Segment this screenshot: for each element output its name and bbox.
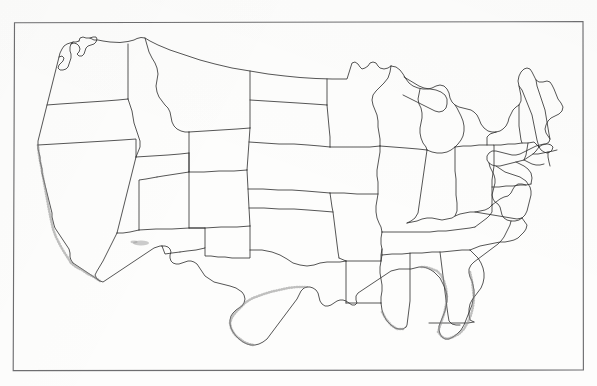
lake-ontario-shore — [496, 105, 519, 132]
northern-border — [79, 37, 391, 79]
california-coast-stipple — [38, 145, 71, 263]
ut-nv-az-jog — [139, 177, 157, 230]
ky-tn-boundary — [382, 227, 475, 232]
nv-ut-boundary — [157, 153, 189, 177]
co-east-boundary — [247, 170, 250, 226]
wa-or-boundary — [47, 99, 128, 105]
pa-ny-north-line — [487, 132, 496, 145]
md-de-boundary — [516, 162, 532, 184]
california-pacific-coast — [38, 145, 73, 263]
wy-east-boundary — [247, 128, 250, 170]
michigan-lower-peninsula — [427, 105, 464, 153]
map-border-frame — [13, 22, 583, 371]
il-in-boundary — [407, 150, 427, 223]
id-mt-boundary — [145, 38, 189, 132]
mn-ia-boundary — [330, 146, 380, 147]
nh-me-boundary — [536, 80, 550, 139]
sd-ne-boundary — [249, 142, 330, 147]
michigan-upper-peninsula — [403, 77, 447, 112]
wi-il-boundary — [380, 146, 427, 150]
az-nm-south-continue — [162, 246, 180, 254]
ks-ok-boundary — [249, 208, 333, 212]
nj-ny-boundary — [524, 160, 544, 165]
nm-tx-boundary — [205, 226, 250, 258]
northeast-atlantic-coast — [487, 144, 553, 166]
mo-ks-boundary — [330, 193, 339, 258]
in-oh-boundary — [455, 147, 457, 216]
florida-west-coast-stipple — [420, 267, 447, 332]
ok-tx-boundary — [250, 250, 346, 266]
ny-vt-boundary — [519, 105, 522, 143]
or-ca-nv-boundary — [38, 139, 136, 157]
ri-ct-boundary — [548, 152, 550, 166]
wy-co-boundary — [189, 170, 247, 172]
puget-sound-detail — [58, 42, 73, 70]
us-outline-map — [0, 0, 597, 386]
state-boundary-group — [38, 37, 563, 345]
southwest-mexico-border — [73, 246, 162, 282]
great-lakes-north-shore — [391, 66, 496, 132]
ca-nv-south-line — [95, 233, 117, 281]
texas-gulf-coast-and-rio-grande — [162, 246, 307, 345]
southeast-coast — [307, 221, 511, 339]
louisiana-delta-stipple — [382, 312, 403, 329]
maine-northern-border — [518, 68, 563, 147]
vt-nh-boundary — [519, 86, 539, 147]
california-south-coast-stipple — [71, 263, 100, 281]
id-ut-nv-line — [136, 153, 189, 157]
illinois-west-boundary — [376, 146, 382, 232]
mn-wi-boundary — [372, 66, 391, 146]
tn-south-boundary — [382, 250, 470, 255]
ohio-river-boundary — [407, 205, 492, 223]
or-id-boundary — [128, 99, 140, 157]
nv-ca-boundary — [117, 157, 136, 233]
texas-coast-stipple — [230, 287, 305, 345]
ms-al-boundary — [406, 253, 410, 327]
arizona-lake-stipple — [131, 241, 150, 246]
az-nm-boundary — [180, 228, 205, 252]
mo-ok-ar-jog — [339, 258, 346, 261]
va-tn-nc-line — [475, 205, 492, 227]
pa-ny-boundary — [494, 142, 539, 147]
scanned-map-page — [0, 0, 597, 386]
co-nm-boundary — [189, 226, 250, 228]
sd-mn-ia-boundary — [327, 105, 330, 147]
nc-sc-boundary — [470, 218, 527, 250]
arkansas-east-boundary — [380, 255, 382, 303]
lake-michigan-outline — [418, 89, 427, 150]
ia-mo-boundary — [330, 193, 378, 194]
mid-atlantic-coast — [489, 163, 531, 221]
nd-sd-boundary — [250, 100, 327, 105]
pacific-northwest-coast — [38, 41, 79, 145]
ne-ks-boundary — [248, 189, 330, 193]
mt-wy-boundary — [189, 128, 250, 132]
va-nc-boundary — [475, 212, 522, 219]
az-nv-ca-corner — [117, 230, 139, 233]
